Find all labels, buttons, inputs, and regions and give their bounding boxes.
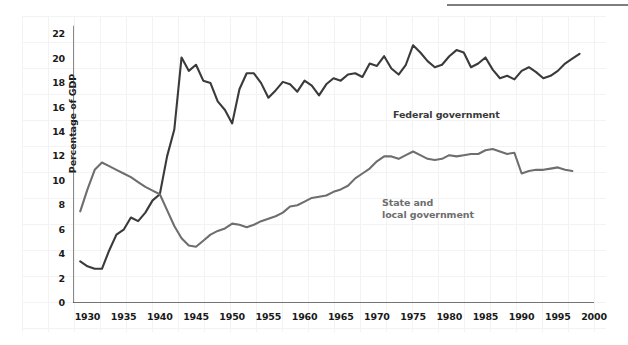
x-tick-label: 1985: [465, 311, 505, 322]
x-tick-label: 1960: [285, 311, 325, 322]
y-tick-label: 12: [39, 150, 65, 161]
plot-area: [73, 22, 594, 303]
y-tick-label: 6: [39, 224, 65, 235]
x-tick-label: 1980: [429, 311, 469, 322]
y-tick-label: 8: [39, 199, 65, 210]
x-tick-label: 1950: [212, 311, 252, 322]
y-tick-label: 20: [39, 53, 65, 64]
y-tick-label: 16: [39, 102, 65, 113]
y-tick-label: 10: [39, 175, 65, 186]
x-tick-label: 1945: [176, 311, 216, 322]
x-tick-label: 1970: [357, 311, 397, 322]
lines-svg: [73, 22, 594, 303]
x-tick-label: 2000: [574, 311, 614, 322]
x-tick-label: 1955: [248, 311, 288, 322]
x-tick-label: 1940: [140, 311, 180, 322]
top-rule-divider: [447, 4, 628, 6]
x-tick-label: 1935: [104, 311, 144, 322]
x-tick-label: 1965: [321, 311, 361, 322]
series-label-state-local: State and local government: [382, 197, 474, 220]
x-tick-label: 1975: [393, 311, 433, 322]
y-tick-label: 4: [39, 248, 65, 259]
chart-figure: Percentage of GDP 0246810121416182022 19…: [0, 0, 628, 345]
y-tick-label: 22: [39, 28, 65, 39]
x-tick-label: 1995: [538, 311, 578, 322]
x-tick-label: 1930: [67, 311, 107, 322]
y-tick-label: 2: [39, 273, 65, 284]
series-label-federal: Federal government: [393, 109, 500, 121]
y-tick-label: 18: [39, 77, 65, 88]
y-tick-label: 14: [39, 126, 65, 137]
x-tick-label: 1990: [502, 311, 542, 322]
y-tick-label: 0: [39, 297, 65, 308]
